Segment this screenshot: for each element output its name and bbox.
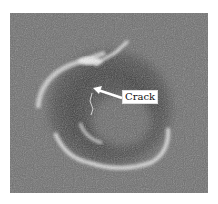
micrograph-image <box>10 13 208 193</box>
grain-overlay <box>10 13 208 193</box>
micrograph-canvas <box>10 13 208 193</box>
crack-label: Crack <box>122 90 158 104</box>
